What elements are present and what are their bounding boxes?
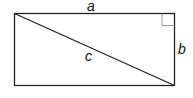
right-triangle-diagram: a b c xyxy=(0,0,193,98)
right-angle-marker xyxy=(162,14,175,26)
diagonal-line xyxy=(15,14,175,86)
label-b: b xyxy=(178,41,186,57)
label-c: c xyxy=(85,48,92,64)
label-a: a xyxy=(87,0,95,14)
